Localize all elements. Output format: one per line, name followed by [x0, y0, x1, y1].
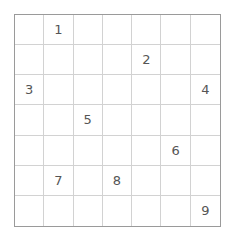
number-grid[interactable]: 123456789 [14, 14, 221, 227]
cell-value: 2 [142, 53, 150, 66]
grid-cell-r3-c1[interactable]: 3 [15, 75, 44, 105]
grid-cell-r4-c3[interactable]: 5 [74, 105, 103, 135]
grid-cell-r7-c3[interactable] [74, 196, 103, 226]
grid-cell-r5-c7[interactable] [191, 136, 220, 166]
grid-cell-r5-c3[interactable] [74, 136, 103, 166]
puzzle-canvas: 123456789 [0, 0, 235, 241]
grid-cell-r2-c4[interactable] [103, 45, 132, 75]
grid-cell-r6-c7[interactable] [191, 166, 220, 196]
grid-cell-r6-c2[interactable]: 7 [44, 166, 73, 196]
grid-cell-r7-c4[interactable] [103, 196, 132, 226]
grid-cell-r5-c5[interactable] [132, 136, 161, 166]
grid-cell-r4-c5[interactable] [132, 105, 161, 135]
grid-cell-r2-c5[interactable]: 2 [132, 45, 161, 75]
cell-value: 3 [25, 83, 33, 96]
grid-cell-r7-c1[interactable] [15, 196, 44, 226]
grid-cell-r2-c7[interactable] [191, 45, 220, 75]
grid-cell-r3-c7[interactable]: 4 [191, 75, 220, 105]
grid-cell-r2-c2[interactable] [44, 45, 73, 75]
grid-cell-r4-c1[interactable] [15, 105, 44, 135]
cell-value: 5 [84, 113, 92, 126]
grid-cell-r7-c6[interactable] [161, 196, 190, 226]
grid-cell-r3-c3[interactable] [74, 75, 103, 105]
grid-cell-r1-c2[interactable]: 1 [44, 15, 73, 45]
grid-cell-r5-c1[interactable] [15, 136, 44, 166]
cell-value: 7 [54, 174, 62, 187]
grid-cell-r3-c4[interactable] [103, 75, 132, 105]
grid-cell-r1-c4[interactable] [103, 15, 132, 45]
grid-cell-r5-c6[interactable]: 6 [161, 136, 190, 166]
grid-cell-r6-c3[interactable] [74, 166, 103, 196]
grid-cell-r6-c1[interactable] [15, 166, 44, 196]
grid-cell-r4-c7[interactable] [191, 105, 220, 135]
grid-cell-r3-c2[interactable] [44, 75, 73, 105]
grid-cell-r1-c7[interactable] [191, 15, 220, 45]
grid-cell-r1-c3[interactable] [74, 15, 103, 45]
cell-value: 8 [113, 174, 121, 187]
cell-value: 4 [201, 83, 209, 96]
grid-cell-r4-c4[interactable] [103, 105, 132, 135]
grid-cell-r7-c5[interactable] [132, 196, 161, 226]
grid-cell-r5-c2[interactable] [44, 136, 73, 166]
grid-cell-r4-c2[interactable] [44, 105, 73, 135]
cell-value: 9 [201, 204, 209, 217]
grid-cell-r1-c5[interactable] [132, 15, 161, 45]
grid-cell-r3-c6[interactable] [161, 75, 190, 105]
grid-cell-r5-c4[interactable] [103, 136, 132, 166]
grid-cell-r2-c3[interactable] [74, 45, 103, 75]
cell-value: 6 [171, 144, 179, 157]
grid-cell-r2-c6[interactable] [161, 45, 190, 75]
grid-cell-r3-c5[interactable] [132, 75, 161, 105]
grid-cell-r6-c5[interactable] [132, 166, 161, 196]
grid-cell-r6-c4[interactable]: 8 [103, 166, 132, 196]
grid-cell-r2-c1[interactable] [15, 45, 44, 75]
grid-cell-r1-c6[interactable] [161, 15, 190, 45]
grid-cell-r1-c1[interactable] [15, 15, 44, 45]
grid-cell-r7-c2[interactable] [44, 196, 73, 226]
grid-cell-r7-c7[interactable]: 9 [191, 196, 220, 226]
cell-value: 1 [54, 23, 62, 36]
grid-cell-r4-c6[interactable] [161, 105, 190, 135]
grid-cell-r6-c6[interactable] [161, 166, 190, 196]
